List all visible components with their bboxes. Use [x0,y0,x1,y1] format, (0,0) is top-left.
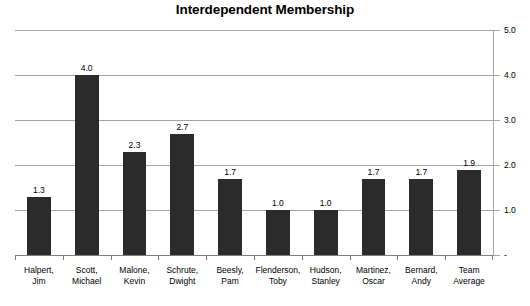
bar-slot: 1.0 [302,30,350,255]
x-axis-category-line: Scott, [63,265,111,276]
x-axis-category-line: Stanley [302,276,350,287]
bar-slot: 1.3 [15,30,63,255]
x-axis-category-label: Hudson,Stanley [302,265,350,286]
x-axis-category-label: Scott,Michael [63,265,111,286]
bar-value-label: 1.7 [397,167,445,177]
y-axis: 5.04.03.02.01.0- [493,0,530,306]
bar-value-label: 4.0 [63,63,111,73]
chart-title: Interdependent Membership [0,2,530,17]
x-axis-category-line: Oscar [350,276,398,287]
x-axis-tick [63,256,64,260]
y-axis-tick [493,120,500,121]
y-axis-tick [493,255,500,256]
x-axis-category-line: Pam [206,276,254,287]
x-axis-category-line: Hudson, [302,265,350,276]
bar-chart: Interdependent Membership 1.34.02.32.71.… [0,0,530,306]
bar[interactable] [123,152,147,256]
bar[interactable] [218,179,242,256]
bar-value-label: 2.7 [158,122,206,132]
x-axis-tick [206,256,207,260]
x-axis-tick [111,256,112,260]
bar-value-label: 2.3 [111,140,159,150]
bars-layer: 1.34.02.32.71.71.01.01.71.71.9 [15,30,493,255]
x-axis-tick [492,256,493,260]
y-axis-label: 3.0 [504,115,516,125]
y-axis-label: 1.0 [504,205,516,215]
x-axis-category-line: Beesly, [206,265,254,276]
bar-slot: 2.7 [158,30,206,255]
x-axis-category-label: TeamAverage [445,265,493,286]
x-axis-category-line: Schrute, [158,265,206,276]
bar[interactable] [170,134,194,256]
bar[interactable] [27,197,51,256]
bar-slot: 2.3 [111,30,159,255]
y-axis-label: - [504,250,507,260]
y-axis-label: 5.0 [504,25,516,35]
y-axis-label: 4.0 [504,70,516,80]
x-axis-category-line: Martinez, [350,265,398,276]
bar-value-label: 1.3 [15,185,63,195]
x-axis-category-line: Halpert, [15,265,63,276]
x-axis-category-line: Kevin [111,276,159,287]
x-axis-tick [397,256,398,260]
bar-value-label: 1.7 [350,167,398,177]
x-axis-category-label: Schrute,Dwight [158,265,206,286]
bar-value-label: 1.7 [206,167,254,177]
bar-value-label: 1.0 [254,198,302,208]
x-axis-category-line: Flenderson, [254,265,302,276]
x-axis-category-line: Jim [15,276,63,287]
y-axis-tick [493,75,500,76]
x-axis-tick [302,256,303,260]
x-axis-category-label: Bernard,Andy [397,265,445,286]
bar[interactable] [266,210,290,255]
x-axis-category-label: Malone,Kevin [111,265,159,286]
x-axis-tick [350,256,351,260]
bar[interactable] [409,179,433,256]
x-axis-category-line: Michael [63,276,111,287]
bar-slot: 1.7 [397,30,445,255]
x-axis-category-line: Team [445,265,493,276]
x-axis-tick [254,256,255,260]
bar-slot: 1.9 [445,30,493,255]
y-axis-tick [493,30,500,31]
bar-value-label: 1.9 [445,158,493,168]
bar-slot: 4.0 [63,30,111,255]
x-axis: Halpert,JimScott,MichaelMalone,KevinSchr… [15,256,494,306]
x-axis-category-line: Dwight [158,276,206,287]
x-axis-category-line: Average [445,276,493,287]
bar-value-label: 1.0 [302,198,350,208]
x-axis-tick [15,256,16,260]
bar[interactable] [362,179,386,256]
x-axis-category-line: Andy [397,276,445,287]
x-axis-category-line: Toby [254,276,302,287]
bar[interactable] [75,75,99,255]
bar-slot: 1.7 [206,30,254,255]
bar[interactable] [457,170,481,256]
y-axis-tick [493,210,500,211]
bar-slot: 1.0 [254,30,302,255]
x-axis-category-label: Flenderson,Toby [254,265,302,286]
x-axis-category-line: Bernard, [397,265,445,276]
bar[interactable] [314,210,338,255]
bar-slot: 1.7 [350,30,398,255]
y-axis-tick [493,165,500,166]
x-axis-category-label: Martinez,Oscar [350,265,398,286]
x-axis-category-label: Halpert,Jim [15,265,63,286]
x-axis-category-line: Malone, [111,265,159,276]
x-axis-tick [158,256,159,260]
x-axis-tick [445,256,446,260]
x-axis-category-label: Beesly,Pam [206,265,254,286]
y-axis-label: 2.0 [504,160,516,170]
